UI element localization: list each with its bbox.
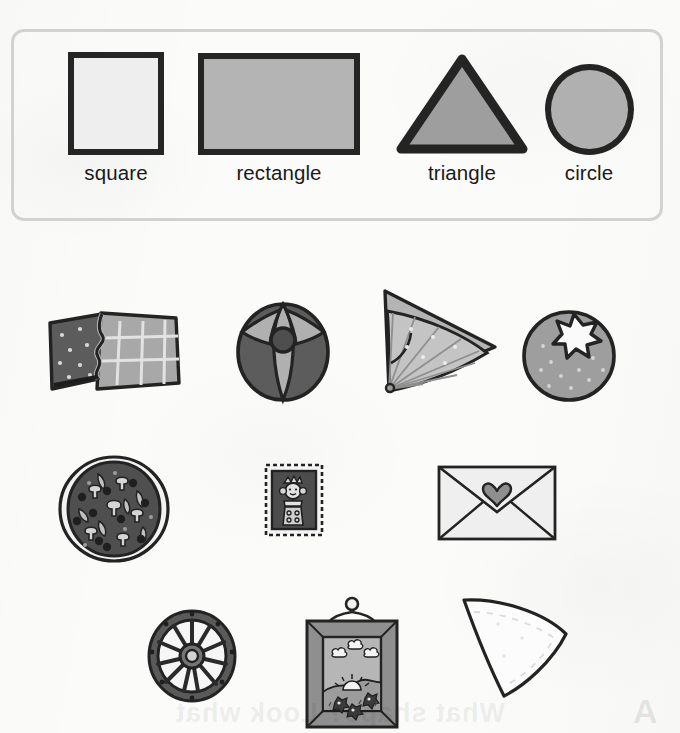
object-chocolate-bar	[40, 305, 186, 400]
chocolate-bar-icon	[40, 305, 186, 400]
object-wagon-wheel	[146, 608, 238, 704]
tomato-icon	[517, 300, 621, 404]
key-label-rectangle: rectangle	[179, 161, 379, 185]
key-circle-art	[519, 45, 659, 155]
circle-shape-icon	[545, 64, 634, 155]
bleed-through-text: What shape? Look what	[0, 698, 680, 729]
object-folding-fan	[371, 285, 501, 397]
triangle-shape-icon	[394, 53, 530, 155]
beach-ball-icon	[233, 300, 333, 404]
object-tomato	[517, 300, 621, 404]
worksheet-sheet: square rectangle triangle circle	[0, 0, 680, 733]
key-label-circle: circle	[519, 161, 659, 185]
wagon-wheel-icon	[146, 608, 238, 704]
folding-fan-icon	[371, 285, 501, 397]
key-item-rectangle: rectangle	[179, 45, 379, 185]
object-pizza	[55, 453, 173, 565]
rectangle-shape-icon	[198, 53, 360, 155]
object-stamp	[263, 462, 325, 538]
envelope-icon	[435, 462, 559, 544]
shape-key-box: square rectangle triangle circle	[11, 29, 663, 221]
bleed-through-mark: A	[633, 692, 658, 731]
key-item-circle: circle	[519, 45, 659, 185]
postage-stamp-icon	[263, 462, 325, 538]
object-beach-ball	[233, 300, 333, 404]
pizza-icon	[55, 453, 173, 565]
key-rectangle-art	[179, 45, 379, 155]
square-shape-icon	[68, 52, 164, 155]
triangle-cloth-icon	[452, 594, 572, 704]
object-triangle-pennant	[452, 594, 572, 704]
object-envelope	[435, 462, 559, 544]
